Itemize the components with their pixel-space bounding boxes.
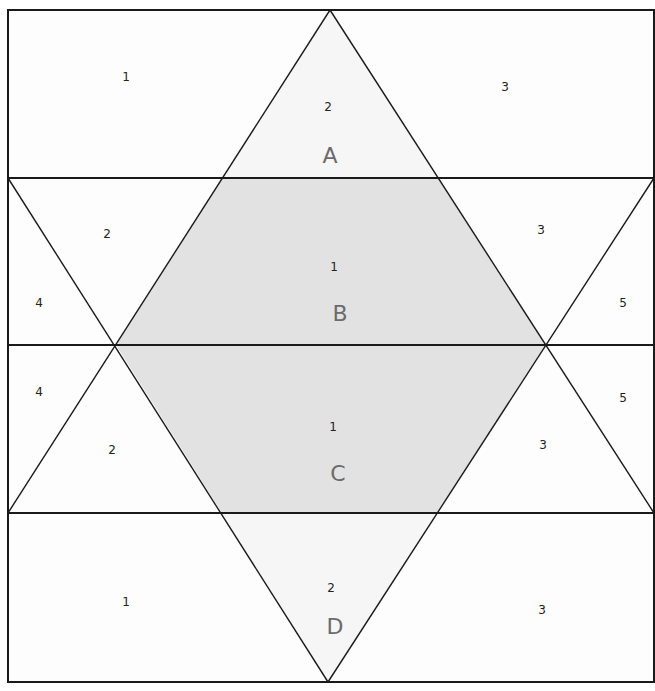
piece-b4-label: 4 — [35, 296, 43, 310]
piece-b5-label: 5 — [619, 296, 627, 310]
section-c-letter: C — [330, 461, 345, 486]
piece-a1-label: 1 — [122, 70, 130, 84]
piece-c3-label: 3 — [539, 438, 547, 452]
piece-c2-label: 2 — [108, 443, 116, 457]
quilt-diagram-canvas: 1 2 3 A 2 1 3 4 5 B 4 2 1 3 5 C 1 2 3 — [0, 0, 655, 691]
section-a-letter: A — [322, 143, 337, 168]
piece-b3-label: 3 — [537, 223, 545, 237]
piece-c4-label: 4 — [35, 385, 43, 399]
piece-b2-label: 2 — [103, 227, 111, 241]
piece-a2-label: 2 — [324, 100, 332, 114]
piece-c1-label: 1 — [329, 420, 337, 434]
quilt-block-diagram: 1 2 3 A 2 1 3 4 5 B 4 2 1 3 5 C 1 2 3 — [0, 0, 655, 691]
section-d-letter: D — [327, 614, 344, 639]
piece-d2-label: 2 — [327, 581, 335, 595]
piece-a3-label: 3 — [501, 80, 509, 94]
section-b-letter: B — [332, 301, 347, 326]
piece-b1-label: 1 — [330, 260, 338, 274]
piece-d3-label: 3 — [538, 603, 546, 617]
piece-d1-label: 1 — [122, 595, 130, 609]
piece-c5-label: 5 — [619, 391, 627, 405]
